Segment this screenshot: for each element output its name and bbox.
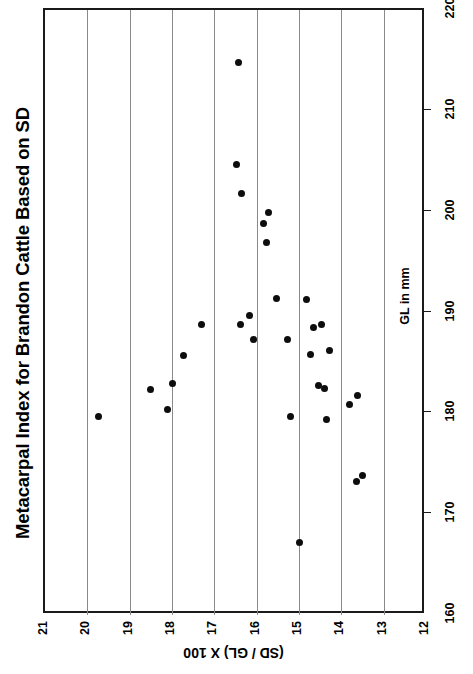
gridline-index-14: [341, 10, 342, 615]
data-point: [246, 312, 253, 319]
data-point: [318, 321, 325, 328]
right-tick-label-220: 220: [442, 0, 458, 25]
data-point: [147, 386, 154, 393]
gridline-index-17: [214, 10, 215, 615]
data-point: [95, 413, 102, 420]
bottom-tick-label-15: 15: [289, 613, 305, 643]
data-point: [346, 401, 353, 408]
right-tick-label-180: 180: [442, 394, 458, 428]
gridline-index-16: [257, 10, 258, 615]
data-point: [250, 336, 257, 343]
data-point: [323, 416, 330, 423]
bottom-tick-label-17: 17: [204, 613, 220, 643]
gridline-index-19: [130, 10, 131, 615]
bottom-tick-label-14: 14: [331, 613, 347, 643]
data-point: [284, 336, 291, 343]
right-tick-label-160: 160: [442, 596, 458, 630]
data-point: [273, 295, 280, 302]
gridline-index-18: [172, 10, 173, 615]
data-point: [260, 220, 267, 227]
plot-area: [43, 8, 424, 613]
bottom-tick-label-20: 20: [77, 613, 93, 643]
right-tick-label-200: 200: [442, 193, 458, 227]
data-point: [180, 352, 187, 359]
right-tick-label-210: 210: [442, 92, 458, 126]
data-point: [310, 324, 317, 331]
data-point: [321, 385, 328, 392]
scatter-plot-figure: Metacarpal Index for Brandon Cattle Base…: [0, 0, 473, 674]
data-point: [238, 190, 245, 197]
data-point: [237, 321, 244, 328]
data-point: [169, 380, 176, 387]
data-point: [263, 239, 270, 246]
data-point: [164, 406, 171, 413]
data-point: [296, 539, 303, 546]
gridline-index-13: [384, 10, 385, 615]
right-tick-mark-200: [424, 210, 431, 211]
data-point: [326, 347, 333, 354]
data-point: [198, 321, 205, 328]
bottom-tick-label-16: 16: [247, 613, 263, 643]
bottom-tick-label-21: 21: [35, 613, 51, 643]
data-point: [235, 59, 242, 66]
gridline-index-20: [87, 10, 88, 615]
bottom-axis-title: (SD / GL) X 100: [43, 645, 424, 661]
right-tick-label-170: 170: [442, 495, 458, 529]
data-point: [287, 413, 294, 420]
right-tick-mark-170: [424, 512, 431, 513]
gridline-index-15: [299, 10, 300, 615]
chart-title: Metacarpal Index for Brandon Cattle Base…: [10, 3, 36, 643]
data-point: [303, 296, 310, 303]
data-point: [353, 478, 360, 485]
data-point: [233, 161, 240, 168]
data-point: [354, 392, 361, 399]
bottom-tick-label-19: 19: [120, 613, 136, 643]
bottom-tick-label-12: 12: [416, 613, 432, 643]
data-point: [359, 472, 366, 479]
right-tick-label-190: 190: [442, 294, 458, 328]
data-point: [307, 351, 314, 358]
right-tick-mark-210: [424, 109, 431, 110]
right-axis-title: GL in mm: [397, 236, 413, 356]
right-tick-mark-190: [424, 311, 431, 312]
data-point: [265, 209, 272, 216]
right-tick-mark-180: [424, 411, 431, 412]
bottom-tick-label-13: 13: [374, 613, 390, 643]
bottom-tick-label-18: 18: [162, 613, 178, 643]
